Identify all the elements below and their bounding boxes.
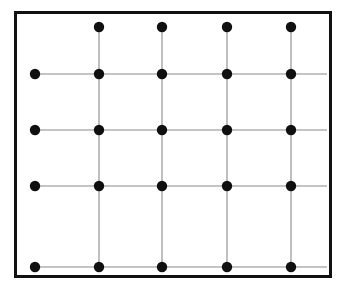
lattice-dot-r2-c1 [94, 125, 104, 135]
lattice-dot-r4-c3 [222, 262, 232, 272]
figure-background [0, 0, 351, 291]
lattice-dot-r3-c0 [30, 181, 40, 191]
lattice-figure [0, 0, 351, 291]
lattice-dot-r0-c1 [94, 22, 104, 32]
lattice-dot-r1-c4 [286, 69, 296, 79]
lattice-dot-r4-c1 [94, 262, 104, 272]
lattice-dot-r1-c2 [157, 69, 167, 79]
lattice-dot-r3-c2 [157, 181, 167, 191]
lattice-dot-r0-c4 [286, 22, 296, 32]
lattice-canvas [0, 0, 351, 291]
lattice-dot-r3-c1 [94, 181, 104, 191]
lattice-dot-r2-c2 [157, 125, 167, 135]
lattice-dot-r1-c0 [30, 69, 40, 79]
lattice-dot-r0-c2 [157, 22, 167, 32]
lattice-dot-r0-c3 [222, 22, 232, 32]
lattice-dot-r2-c4 [286, 125, 296, 135]
lattice-dot-r2-c0 [30, 125, 40, 135]
lattice-dot-r1-c3 [222, 69, 232, 79]
lattice-dot-r4-c4 [286, 262, 296, 272]
lattice-dot-r3-c3 [222, 181, 232, 191]
lattice-dot-r2-c3 [222, 125, 232, 135]
lattice-dot-r4-c0 [30, 262, 40, 272]
lattice-dot-r3-c4 [286, 181, 296, 191]
lattice-dot-r4-c2 [157, 262, 167, 272]
lattice-dot-r1-c1 [94, 69, 104, 79]
